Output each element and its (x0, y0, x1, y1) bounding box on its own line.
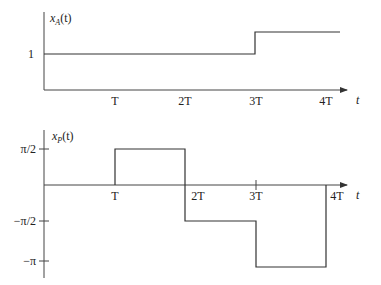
bottom-x-tick-3T: 3T (249, 189, 263, 203)
top-x-tick-3T: 3T (249, 94, 263, 108)
phase-plot: xP(t) π/2 −π/2 −π T 2T 3T 4T t (14, 129, 360, 278)
bottom-y-tick-pi-half: π/2 (21, 142, 36, 156)
top-x-tick-2T: 2T (178, 94, 192, 108)
bottom-t-label: t (356, 188, 360, 202)
bottom-x-tick-4T: 4T (330, 189, 344, 203)
bottom-y-tick-neg-pi-half: −π/2 (14, 214, 36, 228)
top-signal-line (44, 32, 340, 54)
bottom-x-tick-2T: 2T (191, 189, 205, 203)
bottom-x-tick-T: T (111, 189, 119, 203)
top-x-tick-4T: 4T (319, 94, 333, 108)
bottom-y-label: xP(t) (51, 129, 74, 145)
bottom-signal-line (115, 149, 326, 267)
bottom-y-tick-neg-pi: −π (23, 254, 36, 268)
top-x-tick-T: T (111, 94, 119, 108)
top-y-tick-1: 1 (28, 47, 34, 61)
diagram-canvas: xA(t) 1 T 2T 3T 4T t xP(t) π/2 −π/2 −π T… (0, 0, 381, 285)
amplitude-plot: xA(t) 1 T 2T 3T 4T t (28, 11, 360, 108)
top-t-label: t (356, 93, 360, 107)
top-y-label: xA(t) (49, 11, 72, 27)
